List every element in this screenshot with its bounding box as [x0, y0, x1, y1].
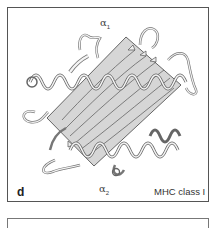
- alpha1-label: α1: [100, 17, 110, 30]
- alpha2-helix-extension: [150, 130, 180, 142]
- alpha2-label: α2: [99, 183, 109, 196]
- alpha1-subscript: 1: [107, 24, 110, 30]
- beta-sheet-platform: [47, 37, 181, 166]
- alpha1-symbol: α: [100, 17, 107, 28]
- alpha2-symbol: α: [99, 183, 106, 194]
- figure-caption: MHC class I: [154, 186, 205, 197]
- panel-letter: d: [17, 185, 24, 199]
- alpha2-subscript: 2: [106, 190, 109, 196]
